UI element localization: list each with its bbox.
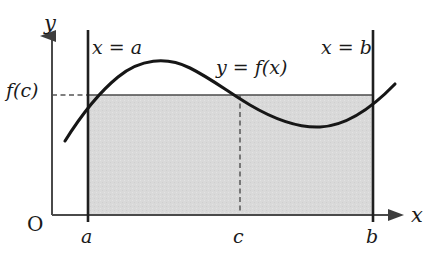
tick-label-a: a bbox=[81, 227, 92, 246]
origin-label: O bbox=[27, 214, 43, 234]
tick-label-c: c bbox=[233, 227, 244, 246]
line-b-label: x = b bbox=[321, 38, 372, 57]
tick-label-b: b bbox=[366, 227, 378, 246]
mvt-integral-figure: y x O f(c) x = a x = b y = f(x) a c b bbox=[0, 0, 434, 268]
f-of-c-label: f(c) bbox=[6, 81, 39, 100]
x-axis-label: x bbox=[411, 205, 423, 226]
curve-label: y = f(x) bbox=[216, 58, 287, 77]
y-axis-label: y bbox=[44, 13, 56, 34]
line-a-label: x = a bbox=[92, 38, 142, 57]
shaded-region bbox=[88, 95, 373, 215]
